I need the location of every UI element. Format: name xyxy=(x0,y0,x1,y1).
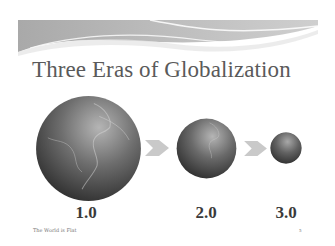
slide-title: Three Eras of Globalization xyxy=(32,57,291,83)
globe-icon-medium xyxy=(176,118,237,179)
header-banner xyxy=(0,0,335,60)
globe-icon-small xyxy=(270,132,302,164)
footer-text: The World is Flat xyxy=(33,227,77,233)
page-number: 5 xyxy=(299,228,302,233)
chevron-right-icon xyxy=(145,138,170,158)
era-label-3: 3.0 xyxy=(275,203,296,223)
slide: Three Eras of Globalization xyxy=(0,0,335,246)
chevron-right-icon xyxy=(244,139,268,158)
globe-icon-large xyxy=(35,95,142,202)
era-label-1: 1.0 xyxy=(75,203,96,223)
era-label-2: 2.0 xyxy=(195,203,216,223)
